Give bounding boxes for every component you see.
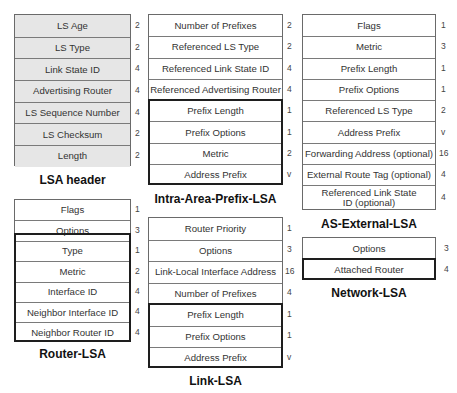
field-neighbor-interface-id: Neighbor Interface ID <box>15 302 130 322</box>
field-options: Options <box>15 220 130 240</box>
field-type: Type <box>15 241 130 261</box>
size-label: 2 <box>287 20 303 30</box>
field-advertising-router: Advertising Router <box>15 80 130 102</box>
link-lsa-diagram: Router Priority Options Link-Local Inter… <box>148 217 283 368</box>
field-referenced-link-state-id: Referenced Link State ID (optional) <box>303 185 435 210</box>
field-number-of-prefixes: Number of Prefixes <box>149 283 282 305</box>
field-referenced-advertising-router: Referenced Advertising Router <box>149 79 282 100</box>
field-attached-router: Attached Router <box>303 259 435 280</box>
size-label: 16 <box>439 148 455 158</box>
field-number-of-prefixes: Number of Prefixes <box>149 15 282 36</box>
size-label: 4 <box>287 84 303 94</box>
caption-intra-area-prefix-lsa: Intra-Area-Prefix-LSA <box>148 192 283 206</box>
router-lsa-diagram: Flags Options Type Metric Interface ID N… <box>14 199 131 342</box>
caption-as-external-lsa: AS-External-LSA <box>302 217 436 231</box>
size-label: 3 <box>444 243 457 253</box>
size-label: 2 <box>287 148 303 158</box>
size-label: 1 <box>441 20 457 30</box>
field-referenced-ls-type: Referenced LS Type <box>303 100 435 121</box>
router-lsa-table: Flags Options Type Metric Interface ID N… <box>14 199 131 342</box>
link-lsa-table: Router Priority Options Link-Local Inter… <box>148 217 283 368</box>
as-external-lsa-table: Flags Metric Prefix Length Prefix Option… <box>302 14 436 210</box>
caption-network-lsa: Network-LSA <box>302 286 436 300</box>
size-label: 1 <box>287 105 303 115</box>
size-label: 4 <box>441 192 457 202</box>
field-ls-age: LS Age <box>15 15 130 37</box>
size-label: 1 <box>287 309 303 319</box>
field-length: Length <box>15 145 130 167</box>
field-address-prefix: Address Prefix <box>149 347 282 369</box>
caption-link-lsa: Link-LSA <box>148 374 283 388</box>
field-metric: Metric <box>15 261 130 281</box>
field-router-priority: Router Priority <box>149 218 282 240</box>
field-prefix-length: Prefix Length <box>149 100 282 121</box>
size-label: v <box>441 127 457 137</box>
size-label: 1 <box>287 127 303 137</box>
field-ls-type: LS Type <box>15 37 130 59</box>
network-lsa-diagram: Options Attached Router 3 4 Network-LSA <box>302 237 436 280</box>
field-prefix-length: Prefix Length <box>303 58 435 79</box>
field-address-prefix: Address Prefix <box>303 121 435 142</box>
field-external-route-tag: External Route Tag (optional) <box>303 164 435 185</box>
field-options: Options <box>303 238 435 259</box>
size-label: 2 <box>441 105 457 115</box>
size-label: 2 <box>287 41 303 51</box>
as-external-lsa-diagram: Flags Metric Prefix Length Prefix Option… <box>302 14 436 210</box>
field-flags: Flags <box>15 200 130 220</box>
field-ls-checksum: LS Checksum <box>15 123 130 145</box>
field-forwarding-address: Forwarding Address (optional) <box>303 143 435 164</box>
field-prefix-options: Prefix Options <box>149 121 282 142</box>
field-metric: Metric <box>303 36 435 57</box>
size-label: 3 <box>287 244 303 254</box>
size-label: 3 <box>441 41 457 51</box>
field-metric: Metric <box>149 143 282 164</box>
size-label: 4 <box>287 63 303 73</box>
size-label: 16 <box>285 266 301 276</box>
lsa-header-table: LS Age LS Type Link State ID Advertising… <box>14 14 131 166</box>
lsa-header-diagram: LS Age LS Type Link State ID Advertising… <box>14 14 131 166</box>
size-label: 1 <box>287 330 303 340</box>
intra-area-prefix-lsa-table: Number of Prefixes Referenced LS Type Re… <box>148 14 283 185</box>
field-neighbor-router-id: Neighbor Router ID <box>15 322 130 342</box>
size-label: v <box>287 352 303 362</box>
size-label: v <box>287 169 303 179</box>
field-prefix-length: Prefix Length <box>149 304 282 326</box>
field-options: Options <box>149 240 282 262</box>
field-referenced-link-state-id: Referenced Link State ID <box>149 58 282 79</box>
caption-router-lsa: Router-LSA <box>14 347 131 361</box>
size-label: 4 <box>444 264 457 274</box>
field-prefix-options: Prefix Options <box>303 79 435 100</box>
size-label: 4 <box>441 169 457 179</box>
field-flags: Flags <box>303 15 435 36</box>
field-link-state-id: Link State ID <box>15 58 130 80</box>
caption-lsa-header: LSA header <box>14 173 131 187</box>
size-label: 1 <box>287 223 303 233</box>
network-lsa-table: Options Attached Router <box>302 237 436 280</box>
field-interface-id: Interface ID <box>15 282 130 302</box>
size-label: 4 <box>287 287 303 297</box>
field-address-prefix: Address Prefix <box>149 164 282 185</box>
field-link-local-interface-address: Link-Local Interface Address <box>149 261 282 283</box>
intra-area-prefix-lsa-diagram: Number of Prefixes Referenced LS Type Re… <box>148 14 283 185</box>
size-label: 1 <box>441 84 457 94</box>
field-prefix-options: Prefix Options <box>149 326 282 348</box>
field-referenced-ls-type: Referenced LS Type <box>149 36 282 57</box>
field-ls-sequence-number: LS Sequence Number <box>15 102 130 124</box>
size-label: 1 <box>441 63 457 73</box>
